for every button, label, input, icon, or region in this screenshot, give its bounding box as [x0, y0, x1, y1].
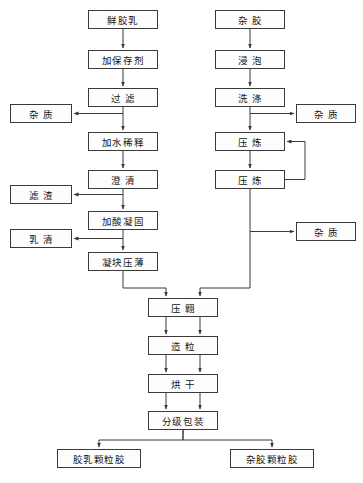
node-filtration[interactable]: 过滤: [88, 88, 158, 107]
node-label: 烘干: [166, 379, 200, 389]
node-label: 胶乳颗粒胶: [73, 454, 126, 464]
node-clarify[interactable]: 澄清: [88, 170, 158, 189]
node-label: 鲜胶乳: [107, 15, 139, 25]
node-dilute-with-water[interactable]: 加水稀释: [88, 132, 158, 151]
node-impurity-right-bottom[interactable]: 杂质: [296, 222, 356, 241]
node-fresh-latex[interactable]: 鲜胶乳: [88, 10, 158, 29]
node-scrap-granular-rubber[interactable]: 杂胶颗粒胶: [230, 449, 314, 468]
node-label: 杂质: [24, 109, 58, 119]
node-label: 滤渣: [24, 190, 58, 200]
node-impurity-right-top[interactable]: 杂质: [296, 104, 356, 123]
node-label: 压炼: [233, 137, 267, 147]
node-acid-coagulation[interactable]: 加酸凝固: [88, 211, 158, 230]
edge-mastication2-to-crepe: [200, 189, 250, 296]
node-filter-residue[interactable]: 滤渣: [10, 185, 72, 204]
node-coagulum-pressing[interactable]: 凝块压薄: [88, 252, 158, 271]
node-label: 过滤: [106, 93, 140, 103]
node-label: 加酸凝固: [102, 216, 144, 226]
node-add-preservative[interactable]: 加保存剂: [88, 50, 158, 69]
node-label: 杂质: [309, 109, 343, 119]
node-label: 分级包装: [162, 416, 204, 426]
node-label: 造粒: [166, 341, 200, 351]
node-impurity-left[interactable]: 杂质: [10, 104, 72, 123]
node-grading-packaging[interactable]: 分级包装: [148, 411, 218, 430]
edge-mastication-recycle-loop: [285, 142, 305, 180]
node-scrap-rubber[interactable]: 杂胶: [215, 10, 285, 29]
node-label: 凝块压薄: [102, 257, 144, 267]
node-whey[interactable]: 乳清: [10, 229, 72, 248]
node-drying[interactable]: 烘干: [148, 374, 218, 393]
node-label: 澄清: [106, 175, 140, 185]
edge-grading-to-latex-granular: [99, 430, 183, 447]
node-label: 浸泡: [233, 55, 267, 65]
node-crepe-pressing[interactable]: 压翺: [148, 298, 218, 317]
node-granulation[interactable]: 造粒: [148, 336, 218, 355]
node-mastication-second[interactable]: 压炼: [215, 170, 285, 189]
node-label: 压翺: [166, 303, 200, 313]
node-label: 杂质: [309, 227, 343, 237]
node-label: 加保存剂: [102, 55, 144, 65]
node-label: 加水稀释: [102, 137, 144, 147]
node-label: 杂胶颗粒胶: [246, 454, 299, 464]
node-label: 乳清: [24, 234, 58, 244]
node-label: 洗涤: [233, 93, 267, 103]
flowchart-canvas: 鲜胶乳 加保存剂 过滤 杂质 加水稀释 澄清 滤渣 加酸凝固 乳清 凝块压薄 杂…: [0, 0, 363, 483]
node-latex-granular-rubber[interactable]: 胶乳颗粒胶: [57, 449, 141, 468]
node-soaking[interactable]: 浸泡: [215, 50, 285, 69]
node-mastication-first[interactable]: 压炼: [215, 132, 285, 151]
node-label: 杂胶: [233, 15, 267, 25]
node-label: 压炼: [233, 175, 267, 185]
edge-coagulum-to-crepe: [123, 271, 166, 296]
edge-grading-to-scrap-granular: [183, 430, 272, 447]
node-washing[interactable]: 洗涤: [215, 88, 285, 107]
